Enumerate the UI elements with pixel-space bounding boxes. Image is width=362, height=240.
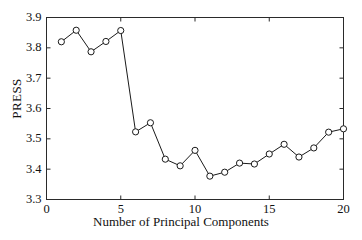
data-point-marker — [177, 163, 183, 169]
y-tick-label: 3.6 — [0, 102, 42, 115]
data-point-marker — [236, 160, 242, 166]
x-tick-label: 5 — [101, 203, 141, 216]
data-point-marker — [73, 27, 79, 33]
data-point-marker — [133, 129, 139, 135]
y-tick-label: 3.5 — [0, 132, 42, 145]
y-tick-label: 3.7 — [0, 72, 42, 85]
x-tick-label: 20 — [324, 203, 362, 216]
data-point-marker — [251, 161, 257, 167]
x-tick-label: 15 — [249, 203, 289, 216]
data-point-marker — [311, 145, 317, 151]
y-tick-label: 3.9 — [0, 11, 42, 24]
data-point-marker — [58, 39, 64, 45]
data-point-marker — [222, 169, 228, 175]
data-point-marker — [88, 49, 94, 55]
data-point-marker — [147, 120, 153, 126]
data-point-marker — [162, 156, 168, 162]
data-point-marker — [118, 27, 124, 33]
data-point-marker — [103, 38, 109, 44]
data-point-marker — [296, 154, 302, 160]
y-tick-label: 3.4 — [0, 163, 42, 176]
data-point-marker — [281, 141, 287, 147]
data-point-marker — [192, 147, 198, 153]
x-tick-label: 0 — [27, 203, 67, 216]
data-point-marker — [207, 173, 213, 179]
x-tick-label: 10 — [175, 203, 215, 216]
x-axis-label: Number of Principal Components — [0, 215, 362, 228]
data-point-marker — [340, 126, 346, 132]
y-tick-label: 3.8 — [0, 41, 42, 54]
press-vs-principal-components-chart: PRESS Number of Principal Components 3.3… — [0, 0, 362, 240]
data-point-marker — [326, 129, 332, 135]
data-point-marker — [266, 151, 272, 157]
plot-frame — [47, 18, 344, 200]
